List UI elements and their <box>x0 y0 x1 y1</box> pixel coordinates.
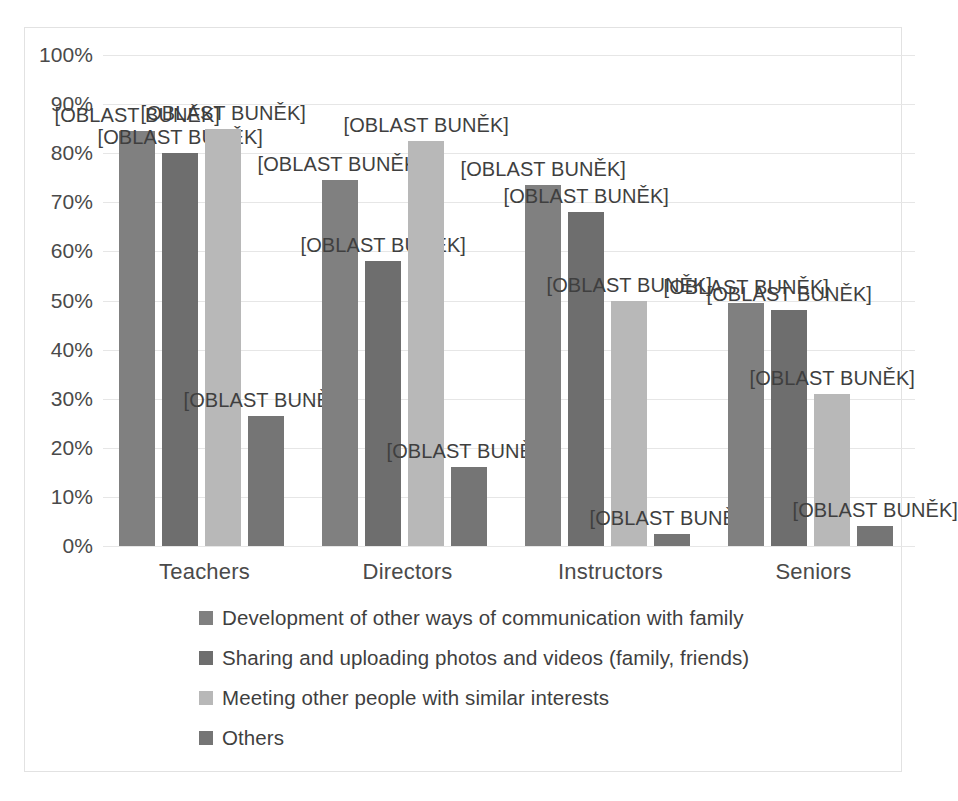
bar[interactable] <box>322 180 358 546</box>
y-axis-tick-label: 90% <box>51 92 93 116</box>
y-axis-tick-label: 50% <box>51 289 93 313</box>
bar[interactable] <box>119 131 155 546</box>
legend-item[interactable]: Sharing and uploading photos and videos … <box>103 638 893 678</box>
legend-item[interactable]: Others <box>103 718 893 758</box>
y-axis-tick-label: 0% <box>62 534 93 558</box>
bar[interactable] <box>771 310 807 546</box>
category-label: Teachers <box>103 550 306 594</box>
bar[interactable] <box>814 394 850 546</box>
bar-groups: [OBLAST BUNĚK][OBLAST BUNĚK][OBLAST BUNĚ… <box>103 55 915 546</box>
chart-container: 100%90%80%70%60%50%40%30%20%10%0% [OBLAS… <box>24 27 902 772</box>
category-axis: TeachersDirectorsInstructorsSeniors <box>103 550 915 594</box>
bar[interactable] <box>568 212 604 546</box>
y-axis-tick-label: 80% <box>51 141 93 165</box>
bar[interactable] <box>248 416 284 546</box>
bar-slot: [OBLAST BUNĚK] <box>162 55 198 546</box>
legend-swatch-icon <box>199 731 213 745</box>
plot-area: 100%90%80%70%60%50%40%30%20%10%0% [OBLAS… <box>103 55 915 546</box>
chart-legend: Development of other ways of communicati… <box>103 598 893 758</box>
y-axis-tick-label: 60% <box>51 239 93 263</box>
bar-group: [OBLAST BUNĚK][OBLAST BUNĚK][OBLAST BUNĚ… <box>712 55 915 546</box>
bar-group: [OBLAST BUNĚK][OBLAST BUNĚK][OBLAST BUNĚ… <box>103 55 306 546</box>
bar-slot: [OBLAST BUNĚK] <box>525 55 561 546</box>
y-axis-tick-label: 30% <box>51 387 93 411</box>
bar-slot: [OBLAST BUNĚK] <box>568 55 604 546</box>
bar-slot: [OBLAST BUNĚK] <box>654 55 690 546</box>
bar-slot: [OBLAST BUNĚK] <box>248 55 284 546</box>
bar-slot: [OBLAST BUNĚK] <box>451 55 487 546</box>
bar[interactable] <box>205 129 241 546</box>
bar[interactable] <box>728 303 764 546</box>
legend-swatch-icon <box>199 691 213 705</box>
bar-slot: [OBLAST BUNĚK] <box>771 55 807 546</box>
bar-group: [OBLAST BUNĚK][OBLAST BUNĚK][OBLAST BUNĚ… <box>509 55 712 546</box>
y-axis-tick-label: 10% <box>51 485 93 509</box>
legend-swatch-icon <box>199 651 213 665</box>
y-axis-tick-label: 40% <box>51 338 93 362</box>
bar-slot: [OBLAST BUNĚK] <box>814 55 850 546</box>
bar-slot: [OBLAST BUNĚK] <box>611 55 647 546</box>
bar[interactable] <box>365 261 401 546</box>
bar[interactable] <box>611 301 647 547</box>
bar-slot: [OBLAST BUNĚK] <box>365 55 401 546</box>
category-label: Instructors <box>509 550 712 594</box>
bar-group-bars: [OBLAST BUNĚK][OBLAST BUNĚK][OBLAST BUNĚ… <box>119 55 290 546</box>
y-axis-tick-label: 100% <box>39 43 93 67</box>
bar-group-bars: [OBLAST BUNĚK][OBLAST BUNĚK][OBLAST BUNĚ… <box>322 55 493 546</box>
bar-slot: [OBLAST BUNĚK] <box>322 55 358 546</box>
bar-slot: [OBLAST BUNĚK] <box>119 55 155 546</box>
category-label: Directors <box>306 550 509 594</box>
gridline <box>103 546 915 547</box>
legend-item-label: Sharing and uploading photos and videos … <box>222 646 749 670</box>
legend-item[interactable]: Meeting other people with similar intere… <box>103 678 893 718</box>
bar[interactable] <box>451 467 487 546</box>
legend-item[interactable]: Development of other ways of communicati… <box>103 598 893 638</box>
bar[interactable] <box>162 153 198 546</box>
y-axis-tick-label: 70% <box>51 190 93 214</box>
bar-group-bars: [OBLAST BUNĚK][OBLAST BUNĚK][OBLAST BUNĚ… <box>525 55 696 546</box>
bar-slot: [OBLAST BUNĚK] <box>205 55 241 546</box>
y-axis-tick-label: 20% <box>51 436 93 460</box>
bar-group: [OBLAST BUNĚK][OBLAST BUNĚK][OBLAST BUNĚ… <box>306 55 509 546</box>
bar-group-bars: [OBLAST BUNĚK][OBLAST BUNĚK][OBLAST BUNĚ… <box>728 55 899 546</box>
bar[interactable] <box>654 534 690 546</box>
bar[interactable] <box>408 141 444 546</box>
bar[interactable] <box>525 185 561 546</box>
legend-item-label: Others <box>222 726 284 750</box>
legend-item-label: Development of other ways of communicati… <box>222 606 744 630</box>
bar-slot: [OBLAST BUNĚK] <box>408 55 444 546</box>
bar-slot: [OBLAST BUNĚK] <box>728 55 764 546</box>
legend-item-label: Meeting other people with similar intere… <box>222 686 609 710</box>
legend-swatch-icon <box>199 611 213 625</box>
bar-slot: [OBLAST BUNĚK] <box>857 55 893 546</box>
category-label: Seniors <box>712 550 915 594</box>
bar[interactable] <box>857 526 893 546</box>
